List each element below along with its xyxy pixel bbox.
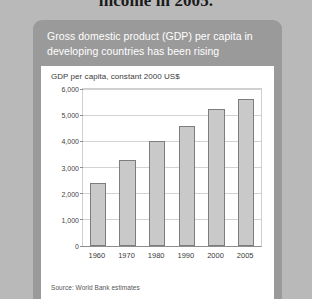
bar-chart: 01,0002,0003,0004,0005,0006,000 19601970… [51, 88, 266, 270]
x-axis-tick-label: 1960 [88, 251, 105, 260]
plot-area: 01,0002,0003,0004,0005,0006,000 [82, 88, 262, 247]
bar [149, 141, 166, 246]
chart-subtitle: GDP per capita, constant 2000 US$ [51, 72, 180, 81]
page-heading: income in 2005. [0, 0, 312, 11]
y-axis-tick-label: 6,000 [61, 86, 79, 93]
chart-card: Gross domestic product (GDP) per capita … [33, 20, 282, 299]
x-axis-tick-label: 1970 [118, 251, 135, 260]
source-note: Source: World Bank estimates [51, 284, 140, 291]
y-axis-tick-label: 4,000 [61, 138, 79, 145]
y-axis-tick-label: 5,000 [61, 112, 79, 119]
bar [90, 183, 107, 246]
y-axis-tick-label: 2,000 [61, 190, 79, 197]
x-axis-tick-label: 2005 [237, 251, 254, 260]
y-axis-tick-label: 0 [75, 243, 79, 250]
y-axis-tick-label: 3,000 [61, 164, 79, 171]
x-axis-tick-label: 2000 [207, 251, 224, 260]
bar [208, 109, 225, 246]
chart-panel: GDP per capita, constant 2000 US$ 01,000… [41, 66, 274, 299]
card-title: Gross domestic product (GDP) per capita … [47, 29, 271, 58]
bar [119, 160, 136, 246]
x-axis-tick-label: 1990 [177, 251, 194, 260]
x-axis-tick-label: 1980 [148, 251, 165, 260]
bar-series [83, 89, 261, 246]
y-axis-tick-label: 1,000 [61, 216, 79, 223]
bar [238, 99, 255, 246]
bar [179, 126, 196, 246]
